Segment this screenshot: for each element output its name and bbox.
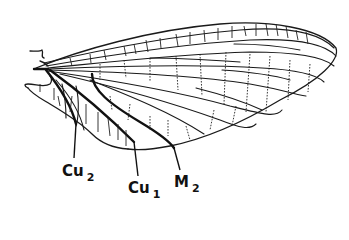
label-cu2-subscript: 2 <box>87 171 95 184</box>
label-m2-base: M <box>174 173 189 191</box>
label-cu1-base: Cu <box>128 179 150 197</box>
cross-veins <box>40 24 310 146</box>
label-cu1-subscript: 1 <box>153 188 161 201</box>
label-cu1: Cu1 <box>128 181 160 200</box>
label-cu2-base: Cu <box>62 162 84 180</box>
label-cu2: Cu2 <box>62 164 94 183</box>
longitudinal-veins <box>44 29 336 134</box>
label-m2: M2 <box>174 175 200 194</box>
label-m2-subscript: 2 <box>192 182 200 195</box>
